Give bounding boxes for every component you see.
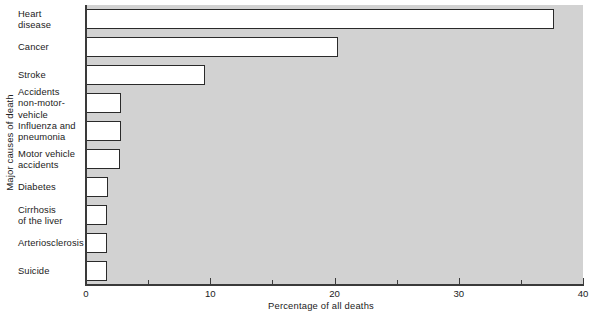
x-tick-major bbox=[459, 278, 460, 285]
bar bbox=[86, 261, 107, 281]
bar bbox=[86, 93, 121, 113]
x-axis-title: Percentage of all deaths bbox=[0, 300, 596, 311]
category-label-text: Cancer bbox=[18, 41, 49, 52]
category-label-text: Influenza andpneumonia bbox=[18, 120, 76, 142]
bar bbox=[86, 177, 108, 197]
bar bbox=[86, 121, 121, 141]
category-label: Influenza andpneumonia bbox=[18, 120, 86, 142]
category-label-column: HeartdiseaseCancerStrokeAccidentsnon-mot… bbox=[18, 5, 86, 285]
category-label-text: Arteriosclerosis bbox=[18, 237, 84, 248]
x-tick-minor bbox=[521, 280, 522, 285]
bar bbox=[86, 205, 107, 225]
category-label: Heartdisease bbox=[18, 8, 86, 30]
x-tick-major bbox=[86, 278, 87, 285]
x-tick-major bbox=[335, 278, 336, 285]
category-label-text: Cirrhosisof the liver bbox=[18, 204, 62, 226]
bar bbox=[86, 149, 120, 169]
category-label-text: Heartdisease bbox=[18, 8, 51, 30]
category-label: Diabetes bbox=[18, 181, 86, 192]
x-tick-minor bbox=[272, 280, 273, 285]
y-axis-title: Major causes of death bbox=[0, 0, 18, 285]
category-label: Stroke bbox=[18, 69, 86, 80]
category-label-text: Diabetes bbox=[18, 181, 56, 192]
plot-area bbox=[86, 5, 583, 285]
x-tick-label: 40 bbox=[578, 288, 589, 299]
x-tick-major bbox=[583, 278, 584, 285]
bar bbox=[86, 65, 205, 85]
x-tick-minor bbox=[397, 280, 398, 285]
bar-chart: Major causes of death HeartdiseaseCancer… bbox=[0, 0, 596, 316]
category-label: Suicide bbox=[18, 265, 86, 276]
x-tick-label: 20 bbox=[329, 288, 340, 299]
category-label: Accidentsnon-motor-vehicle bbox=[18, 86, 86, 120]
x-tick-label: 30 bbox=[453, 288, 464, 299]
category-label: Arteriosclerosis bbox=[18, 237, 86, 248]
category-label: Motor vehicleaccidents bbox=[18, 148, 86, 170]
x-tick-label: 0 bbox=[83, 288, 88, 299]
category-label-text: Suicide bbox=[18, 265, 49, 276]
y-axis-title-text: Major causes of death bbox=[4, 94, 15, 191]
category-label-text: Motor vehicleaccidents bbox=[18, 148, 75, 170]
x-tick-major bbox=[210, 278, 211, 285]
category-label: Cancer bbox=[18, 41, 86, 52]
x-tick-label: 10 bbox=[205, 288, 216, 299]
x-tick-minor bbox=[148, 280, 149, 285]
x-axis-title-text: Percentage of all deaths bbox=[222, 300, 374, 311]
bar bbox=[86, 233, 107, 253]
category-label: Cirrhosisof the liver bbox=[18, 204, 86, 226]
category-label-text: Accidentsnon-motor-vehicle bbox=[18, 86, 65, 120]
category-label-text: Stroke bbox=[18, 69, 46, 80]
bar bbox=[86, 37, 338, 57]
y-axis-line bbox=[85, 5, 87, 285]
bar bbox=[86, 9, 554, 29]
